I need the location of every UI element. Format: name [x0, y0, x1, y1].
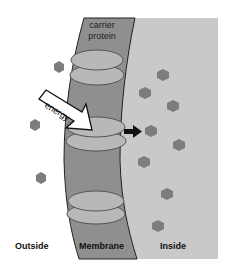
- carrier-protein-bottom: [67, 191, 125, 224]
- outside-label: Outside: [15, 241, 49, 251]
- carrier-label-line2: protein: [82, 31, 122, 42]
- molecule: [30, 119, 40, 131]
- molecule: [36, 172, 46, 184]
- inside-label: Inside: [160, 241, 186, 251]
- inside-region: [117, 18, 218, 259]
- molecule: [54, 61, 64, 73]
- membrane-label: Membrane: [79, 241, 124, 251]
- carrier-label-line1: carrier: [82, 20, 122, 31]
- carrier-protein-top: [70, 50, 124, 85]
- carrier-protein-label: carrier protein: [82, 20, 122, 42]
- outside-molecules: [30, 61, 64, 184]
